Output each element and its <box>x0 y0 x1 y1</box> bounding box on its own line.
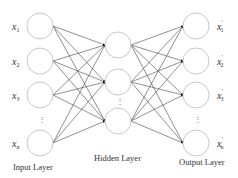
input-node-2 <box>27 48 53 74</box>
input-node-n <box>27 130 53 156</box>
hidden-layer: ⋮ <box>105 32 131 134</box>
input-labels: x1 x2 x3 xn <box>11 21 19 150</box>
connection-edge <box>131 45 183 143</box>
input-hidden-edges <box>53 26 105 143</box>
output-layer-label: Output Layer <box>179 157 225 167</box>
hidden-ellipsis: ⋮ <box>116 97 124 106</box>
hidden-output-edges <box>131 26 183 143</box>
neural-network-diagram: ⋮ ⋮ ⋮ x1 x2 x3 xn x'1 x'2 x'3 x'n Input … <box>0 0 238 178</box>
input-node-1 <box>27 13 53 39</box>
output-node-n <box>183 130 209 156</box>
input-label-2: x2 <box>11 56 19 68</box>
connection-edge <box>53 26 105 45</box>
output-label-3: x'3 <box>216 88 224 102</box>
connection-edge <box>131 121 183 143</box>
output-node-1 <box>183 13 209 39</box>
output-labels: x'1 x'2 x'3 x'n <box>216 19 224 150</box>
output-label-2: x'2 <box>216 54 224 68</box>
connection-edge <box>53 45 105 61</box>
input-node-3 <box>27 82 53 108</box>
connection-edge <box>131 26 183 45</box>
input-ellipsis: ⋮ <box>38 115 46 124</box>
hidden-node-n <box>105 108 131 134</box>
connection-edge <box>131 95 183 121</box>
connection-edge <box>131 61 183 82</box>
input-label-n: xn <box>11 138 19 150</box>
input-label-1: x1 <box>11 21 19 33</box>
output-node-3 <box>183 82 209 108</box>
output-layer: ⋮ <box>183 13 209 156</box>
connection-edge <box>131 45 183 61</box>
connection-edge <box>53 82 105 95</box>
connection-edge <box>53 45 105 143</box>
connection-edge <box>53 61 105 82</box>
output-node-2 <box>183 48 209 74</box>
output-label-n: x'n <box>216 136 224 150</box>
output-ellipsis: ⋮ <box>194 115 202 124</box>
connection-edge <box>53 121 105 143</box>
input-layer-label: Input Layer <box>13 162 53 172</box>
connection-edge <box>131 82 183 95</box>
hidden-node-1 <box>105 32 131 58</box>
input-label-3: x3 <box>11 90 19 102</box>
output-label-1: x'1 <box>216 19 224 33</box>
connection-edge <box>53 95 105 121</box>
hidden-layer-label: Hidden Layer <box>94 153 141 163</box>
hidden-node-2 <box>105 69 131 95</box>
input-layer: ⋮ <box>27 13 53 156</box>
